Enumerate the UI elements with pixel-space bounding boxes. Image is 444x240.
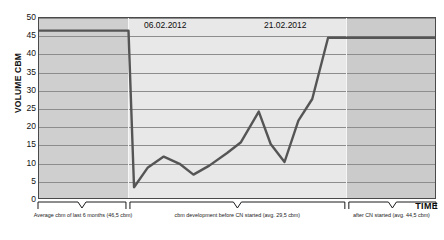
region-caption-left: Average cbm of last 6 months (46,5 cbm) bbox=[23, 212, 143, 219]
chart-container: VOLUME CBM 50454035302520151050 06.02.20… bbox=[0, 0, 444, 240]
plot-area bbox=[38, 17, 436, 199]
y-tick-40: 40 bbox=[16, 49, 36, 57]
y-tick-20: 20 bbox=[16, 122, 36, 130]
annotation-date-second: 21.02.2012 bbox=[264, 20, 307, 30]
y-tick-15: 15 bbox=[16, 140, 36, 148]
y-tick-5: 5 bbox=[16, 177, 36, 185]
y-tick-25: 25 bbox=[16, 104, 36, 112]
data-line-series bbox=[39, 18, 435, 198]
y-tick-45: 45 bbox=[16, 31, 36, 39]
annotation-date-first: 06.02.2012 bbox=[144, 20, 187, 30]
y-tick-10: 10 bbox=[16, 159, 36, 167]
x-axis-title: TIME bbox=[415, 201, 438, 211]
region-caption-right: after CN started (avg. 44,5 cbm) bbox=[322, 212, 444, 219]
region-caption-middle: cbm development before CN started (avg. … bbox=[128, 212, 346, 219]
y-tick-50: 50 bbox=[16, 13, 36, 21]
y-tick-30: 30 bbox=[16, 86, 36, 94]
y-tick-35: 35 bbox=[16, 68, 36, 76]
